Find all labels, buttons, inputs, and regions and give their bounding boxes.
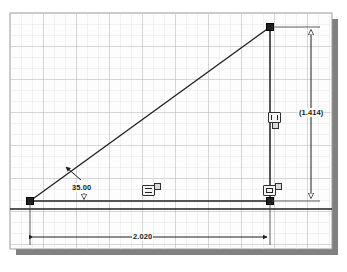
constraint-badge-icon[interactable]: [272, 122, 279, 129]
horizontal-constraint-glyph-inner: [145, 188, 152, 193]
sketch-drawing-area[interactable]: [0, 0, 347, 272]
vertical-constraint-glyph-inner: [271, 115, 278, 120]
angle-dimension-label[interactable]: 35.00: [71, 183, 92, 192]
horizontal-dimension-label[interactable]: 2.020: [132, 232, 153, 241]
constraint-badge-icon[interactable]: [154, 183, 161, 190]
cad-sketch-view[interactable]: 35.00 (1.414) 2.020: [0, 0, 347, 272]
anchor-constraint-glyph-inner: [266, 188, 273, 193]
vertical-dimension-label[interactable]: (1.414): [298, 108, 324, 117]
constraint-badge-icon[interactable]: [275, 183, 282, 190]
grid-layer: [10, 13, 332, 249]
